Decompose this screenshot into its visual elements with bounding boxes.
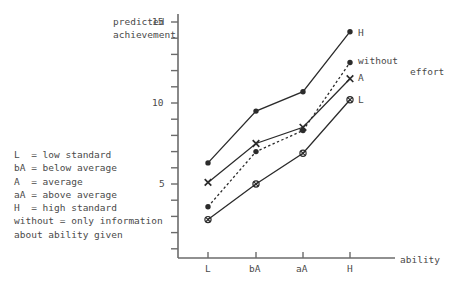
data-point-h-h <box>347 29 352 34</box>
data-point-l-l <box>205 217 211 223</box>
data-point-h-ba <box>253 108 258 113</box>
y-axis-title-line1: predicted <box>113 16 176 29</box>
x-tick-label-l: L <box>205 263 211 275</box>
series-line-l <box>208 100 350 220</box>
y-axis-ticks <box>171 22 178 249</box>
x-axis-title: ability <box>400 254 440 266</box>
series-label-without: without <box>358 55 398 67</box>
series-label-l: L <box>358 94 364 106</box>
data-point-without-l <box>205 204 210 209</box>
x-tick-label-h: H <box>347 263 353 275</box>
y-tick-label-15: 15 <box>152 16 163 28</box>
data-point-a-l <box>205 179 212 186</box>
data-point-without-ba <box>253 149 258 154</box>
x-tick-label-aa: aA <box>296 263 307 275</box>
series-label-a: A <box>358 72 364 84</box>
chart-screenshot: predicted achievement 15 10 5 L bA aA H … <box>0 0 452 292</box>
data-point-a-ba <box>253 140 260 147</box>
plot-area <box>0 0 452 292</box>
series-line-h <box>208 32 350 163</box>
data-point-a-h <box>347 75 354 82</box>
legend-line-h: H = high standard <box>14 201 163 214</box>
legend-line-a: A = average <box>14 175 163 188</box>
series-layer <box>205 29 354 223</box>
data-point-h-aa <box>300 89 305 94</box>
x-axis-ticks <box>208 252 350 258</box>
x-tick-label-ba: bA <box>249 263 260 275</box>
series-line-without <box>208 63 350 207</box>
data-point-l-aa <box>300 150 306 156</box>
legend-line-about: about ability given <box>14 228 163 241</box>
y-axis-title-line2: achievement <box>113 29 176 42</box>
series-label-h: H <box>358 27 364 39</box>
legend-line-ba: bA = below average <box>14 161 163 174</box>
y-tick-label-10: 10 <box>152 97 163 109</box>
y-axis-title: predicted achievement <box>113 16 176 41</box>
legend-line-without: without = only information <box>14 214 163 227</box>
legend-line-aa: aA = above average <box>14 188 163 201</box>
data-point-l-h <box>347 97 353 103</box>
legend-line-l: L = low standard <box>14 148 163 161</box>
data-point-l-ba <box>253 181 259 187</box>
effort-label: effort <box>410 66 444 78</box>
legend: L = low standard bA = below average A = … <box>14 148 163 241</box>
data-point-without-h <box>347 60 352 65</box>
data-point-h-l <box>205 160 210 165</box>
